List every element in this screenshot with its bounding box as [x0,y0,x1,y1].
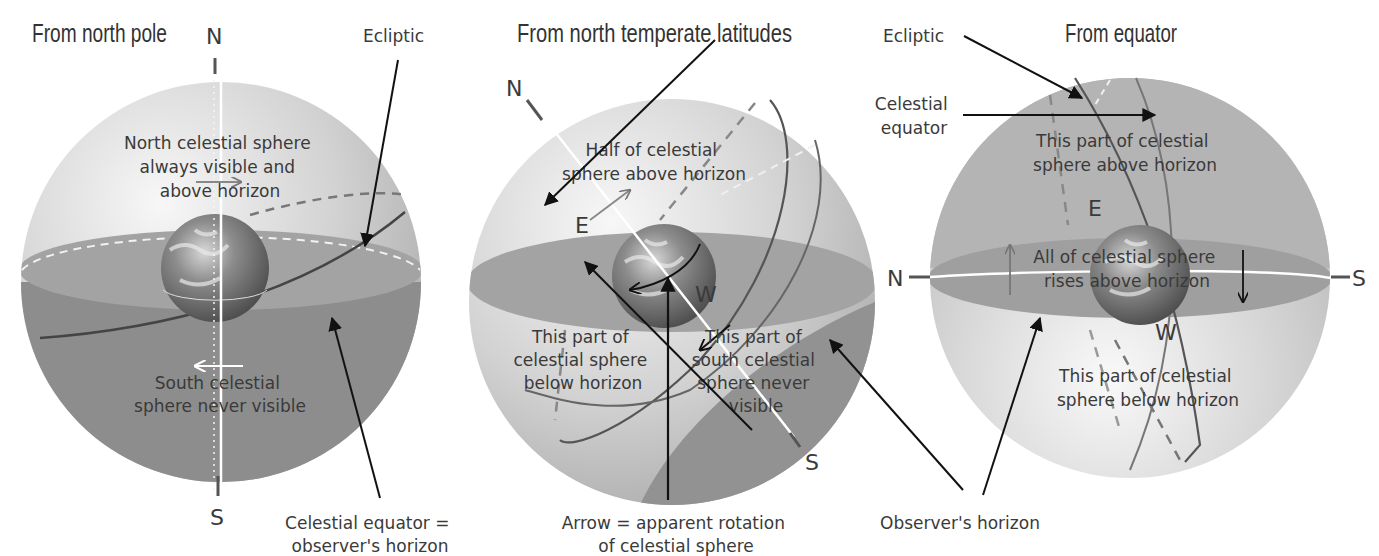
south-pole-label: S [1352,266,1366,291]
caption-observers-horizon: Observer's horizon [880,513,1040,533]
ecliptic-label: Ecliptic [363,26,424,46]
south-pole-label: S [805,450,819,475]
earth [161,214,269,322]
horizon-pointer-arrow [830,340,963,490]
north-pole-label: N [506,76,522,101]
panel-north-temperate: From north temperate latitudes N [467,18,880,556]
celestial-equator-label: Celestial equator [875,94,953,138]
ecliptic-label: Ecliptic [883,26,944,46]
east-label: E [1088,196,1102,221]
celestial-sphere-diagram: From north pole N S [0,0,1379,556]
north-pole-label: N [887,266,903,291]
west-label: W [1155,320,1177,345]
earth [612,224,716,328]
panel-title: From north temperate latitudes [517,18,792,48]
panel-title: From equator [1065,18,1177,48]
south-pole-label: S [210,505,224,530]
east-label: E [575,213,589,238]
caption-apparent-rotation: Arrow = apparent rotation of celestial s… [562,513,791,556]
below-horizon-label: This part of celestial sphere below hori… [513,327,652,393]
north-pole-label: N [206,24,222,49]
panel-title: From north pole [32,18,167,48]
west-label: W [695,282,717,307]
caption-celestial-equator: Celestial equator = observer's horizon [285,513,455,556]
panel-north-pole: From north pole N S [0,18,460,556]
